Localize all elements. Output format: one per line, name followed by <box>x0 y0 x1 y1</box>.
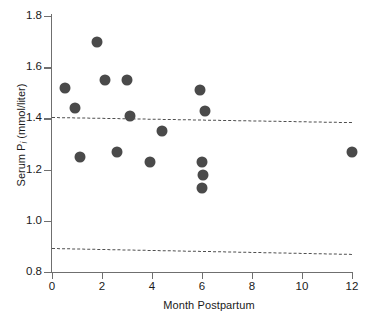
y-tick <box>44 16 51 17</box>
data-point <box>59 82 70 93</box>
y-axis-title: Serum Pi (mmol/liter) <box>15 25 29 245</box>
x-tick-label: 2 <box>99 281 105 293</box>
y-tick-label: 0.8 <box>26 266 42 278</box>
data-point <box>197 156 208 167</box>
x-axis-title-text: Month Postpartum <box>163 299 254 311</box>
x-tick-label: 8 <box>249 281 255 293</box>
plot-area <box>52 16 352 272</box>
data-point <box>198 169 209 180</box>
x-tick <box>102 272 103 279</box>
data-point <box>74 151 85 162</box>
x-tick-label: 12 <box>346 281 359 293</box>
y-tick <box>44 118 51 119</box>
x-tick-label: 4 <box>149 281 155 293</box>
data-point <box>197 182 208 193</box>
y-tick <box>44 272 51 273</box>
y-tick-label: 1.8 <box>26 10 42 22</box>
x-tick <box>52 272 53 279</box>
y-tick <box>44 67 51 68</box>
data-point <box>122 75 133 86</box>
y-axis-title-main: Serum P <box>15 144 27 187</box>
data-point <box>69 103 80 114</box>
data-point <box>112 146 123 157</box>
y-tick <box>44 221 51 222</box>
x-tick <box>252 272 253 279</box>
data-point <box>199 105 210 116</box>
data-point <box>347 146 358 157</box>
y-axis-title-unit: (mmol/liter) <box>15 84 27 142</box>
x-tick <box>302 272 303 279</box>
scatter-plot-figure: 0.81.01.21.41.61.8 024681012 Month Postp… <box>0 0 366 318</box>
data-point <box>157 126 168 137</box>
x-tick-label: 0 <box>49 281 55 293</box>
x-tick <box>152 272 153 279</box>
data-point <box>194 85 205 96</box>
x-tick-label: 10 <box>296 281 309 293</box>
data-point <box>92 36 103 47</box>
data-point <box>124 110 135 121</box>
x-tick-label: 6 <box>199 281 205 293</box>
x-tick <box>352 272 353 279</box>
y-tick <box>44 170 51 171</box>
x-tick <box>202 272 203 279</box>
data-point <box>99 75 110 86</box>
data-point <box>144 156 155 167</box>
x-axis-title: Month Postpartum <box>0 299 366 311</box>
